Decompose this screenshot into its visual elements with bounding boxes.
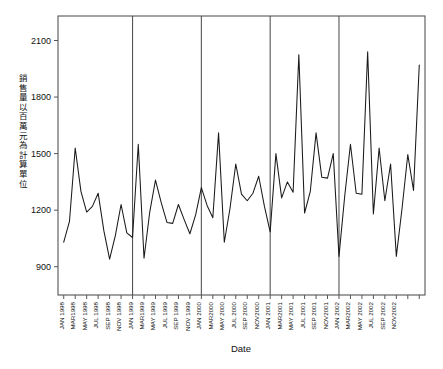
x-tick-label: NOV 1999 <box>184 301 191 330</box>
x-tick-label: JAN 2001 <box>264 301 271 329</box>
x-tick-label: MAR2000 <box>207 301 214 329</box>
x-tick-label: MAY 2000 <box>218 301 225 330</box>
x-axis-ticks <box>64 295 420 299</box>
x-tick-label: JUL 2000 <box>230 301 237 328</box>
x-tick-label: JUL 2001 <box>299 301 306 328</box>
x-tick-label: SEP 1999 <box>172 301 179 329</box>
x-tick-label: JAN 1999 <box>127 301 134 329</box>
chart-root: 銷售量以百萬元為計算單位 9001200150018002100 JAN 199… <box>0 0 443 369</box>
y-axis-title: 銷售量以百萬元為計算單位 <box>16 74 31 189</box>
data-series-line <box>64 52 420 259</box>
x-tick-label: SEP 2002 <box>379 301 386 329</box>
y-tick-label: 2100 <box>31 36 51 46</box>
year-separator-lines <box>133 16 339 295</box>
x-tick-label: JAN 1998 <box>58 301 65 329</box>
x-tick-label: NOV 1998 <box>115 301 122 330</box>
x-tick-label: SEP 2000 <box>241 301 248 329</box>
x-tick-label: MAR2001 <box>276 301 283 329</box>
x-tick-label: MAY 1998 <box>81 301 88 330</box>
x-tick-label: MAR2002 <box>344 301 351 329</box>
x-tick-label: MAY 2002 <box>356 301 363 330</box>
x-axis-title: Date <box>231 343 251 354</box>
y-tick-label: 900 <box>36 262 51 272</box>
plot-frame <box>58 16 425 295</box>
x-tick-label: NOV2002 <box>390 301 397 329</box>
x-tick-label: JUL 2002 <box>367 301 374 328</box>
x-tick-label: NOV2001 <box>322 301 329 329</box>
x-tick-label: MAR1998 <box>69 301 76 329</box>
x-tick-label: SEP 1998 <box>104 301 111 329</box>
x-axis-tick-labels: JAN 1998MAR1998MAY 1998JUL 1998SEP 1998N… <box>58 301 398 330</box>
x-tick-label: JAN 2000 <box>195 301 202 329</box>
x-tick-label: JUL 1999 <box>161 301 168 328</box>
x-tick-label: JUL 1998 <box>92 301 99 328</box>
x-tick-label: JAN 2002 <box>333 301 340 329</box>
plot-border <box>58 16 425 295</box>
x-tick-label: MAY 2001 <box>287 301 294 330</box>
line-chart: 9001200150018002100 JAN 1998MAR1998MAY 1… <box>0 0 443 369</box>
x-tick-label: MAY 1999 <box>149 301 156 330</box>
y-tick-label: 1800 <box>31 92 51 102</box>
y-tick-label: 1500 <box>31 149 51 159</box>
x-tick-label: MAR1999 <box>138 301 145 329</box>
y-tick-label: 1200 <box>31 205 51 215</box>
x-tick-label: SEP 2001 <box>310 301 317 329</box>
x-tick-label: NOV2000 <box>253 301 260 329</box>
y-axis-ticks: 9001200150018002100 <box>31 36 58 272</box>
